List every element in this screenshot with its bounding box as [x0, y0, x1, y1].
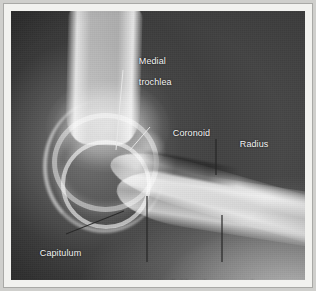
label-coronoid-line1: Coronoid — [173, 128, 210, 138]
xray-figure: Medial trochlea Coronoid Radius Capitulu… — [0, 0, 316, 291]
label-radius-line1: Radius — [240, 139, 269, 149]
leader-line-capitulum — [66, 211, 124, 234]
label-coronoid: Coronoid — [152, 117, 210, 149]
label-radius: Radius — [219, 128, 268, 160]
radiograph-plate: Medial trochlea Coronoid Radius Capitulu… — [11, 11, 305, 280]
label-radial-head-line1: Radial head — [157, 279, 206, 281]
label-capitulum: Capitulum — [19, 237, 81, 269]
label-medial-trochlea: Medial trochlea — [118, 45, 172, 98]
label-ulna: Ulna — [224, 268, 264, 280]
leader-line-coronoid — [130, 127, 150, 150]
label-radial-head: Radial head — [136, 268, 206, 280]
label-medial-trochlea-line1: Medial — [139, 56, 166, 66]
annotation-layer: Medial trochlea Coronoid Radius Capitulu… — [11, 11, 305, 280]
label-capitulum-line1: Capitulum — [40, 248, 81, 258]
label-medial-trochlea-line2: trochlea — [139, 77, 172, 87]
label-ulna-line1: Ulna — [245, 279, 264, 281]
